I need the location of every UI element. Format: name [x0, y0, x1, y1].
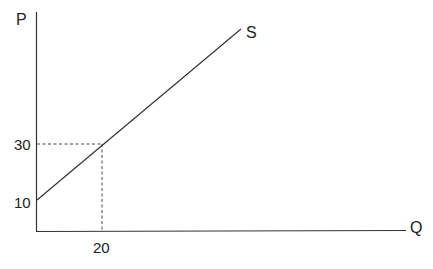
x-tick-20: 20 [93, 240, 110, 255]
y-tick-10: 10 [14, 195, 31, 210]
q-axis-label: Q [410, 220, 422, 236]
supply-curve-label: S [246, 25, 257, 41]
q-axis-line [37, 231, 407, 232]
supply-curve [37, 29, 241, 200]
supply-chart [0, 0, 433, 269]
p-axis-label: P [16, 12, 27, 28]
y-tick-30: 30 [14, 137, 31, 152]
